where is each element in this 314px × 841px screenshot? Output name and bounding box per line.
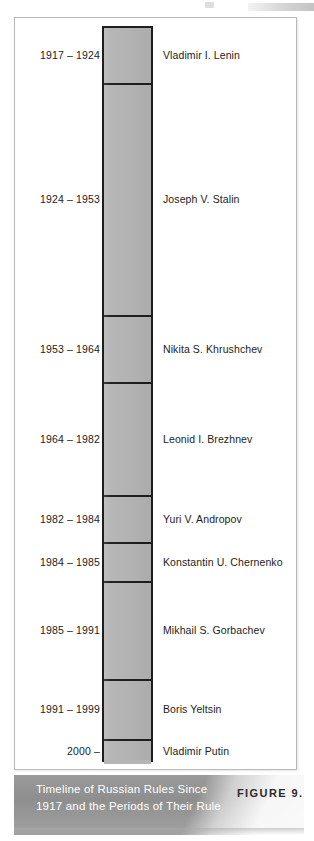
ruler-name-label: Vladimir I. Lenin xyxy=(163,49,240,61)
scan-artifact-strip xyxy=(248,3,314,11)
ruler-name-label: Leonid I. Brezhnev xyxy=(163,433,252,445)
period-label: 1917 – 1924 xyxy=(40,49,100,61)
figure-caption-band: Timeline of Russian Rules Since 1917 and… xyxy=(14,775,304,835)
period-label: 1984 – 1985 xyxy=(40,556,100,568)
period-label: 1985 – 1991 xyxy=(40,624,100,636)
timeline-segment xyxy=(104,384,151,497)
page-bottom-fade xyxy=(14,828,304,834)
figure-frame: 1917 – 1924Vladimir I. Lenin1924 – 1953J… xyxy=(14,17,297,770)
timeline-segment xyxy=(104,28,151,85)
ruler-name-label: Yuri V. Andropov xyxy=(163,513,242,525)
scan-artifact-dot xyxy=(205,2,214,8)
timeline-segment xyxy=(104,544,151,583)
ruler-name-label: Joseph V. Stalin xyxy=(163,193,240,205)
period-label: 1982 – 1984 xyxy=(40,513,100,525)
timeline-bar xyxy=(102,26,153,762)
timeline-segment xyxy=(104,317,151,384)
timeline-segment xyxy=(104,741,151,764)
figure-number-label: FIGURE 9.1 xyxy=(237,787,304,799)
ruler-name-label: Boris Yeltsin xyxy=(163,703,222,715)
timeline-segment xyxy=(104,583,151,681)
period-label: 1924 – 1953 xyxy=(40,193,100,205)
ruler-name-label: Mikhail S. Gorbachev xyxy=(163,624,265,636)
timeline-segment xyxy=(104,681,151,741)
timeline-segment xyxy=(104,85,151,317)
timeline-segment xyxy=(104,497,151,544)
period-label: 2000 – xyxy=(67,745,100,757)
figure-caption-text: Timeline of Russian Rules Since 1917 and… xyxy=(36,781,221,814)
ruler-name-label: Vladimir Putin xyxy=(163,745,229,757)
period-label: 1991 – 1999 xyxy=(40,703,100,715)
ruler-name-label: Nikita S. Khrushchev xyxy=(163,343,262,355)
ruler-name-label: Konstantin U. Chernenko xyxy=(163,556,283,568)
period-label: 1964 – 1982 xyxy=(40,433,100,445)
period-label: 1953 – 1964 xyxy=(40,343,100,355)
